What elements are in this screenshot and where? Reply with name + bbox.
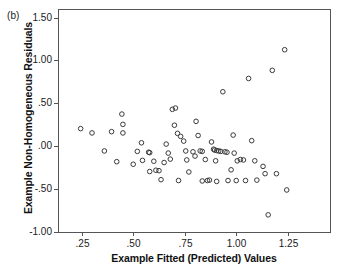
data-point [214, 179, 219, 184]
data-point [157, 168, 162, 173]
plot-frame [59, 10, 331, 233]
data-point [78, 126, 83, 131]
data-point [284, 188, 289, 193]
data-point [193, 154, 198, 159]
data-point [131, 162, 136, 167]
data-point [266, 213, 271, 218]
plot-border [59, 10, 331, 233]
data-point [176, 178, 181, 183]
data-point [102, 149, 107, 154]
data-point [172, 123, 177, 128]
data-point [159, 177, 164, 182]
data-point [252, 159, 257, 164]
data-point [203, 157, 208, 162]
data-point [90, 131, 95, 136]
data-point [184, 158, 189, 163]
data-point [234, 178, 239, 183]
data-point [226, 178, 231, 183]
data-point [194, 119, 199, 124]
axis-ticks [54, 19, 289, 237]
data-point [263, 171, 268, 176]
data-point [241, 158, 246, 163]
data-point [164, 142, 169, 147]
data-point [200, 179, 205, 184]
data-point [229, 168, 234, 173]
data-point [187, 170, 192, 175]
data-point [178, 134, 183, 139]
data-point [196, 133, 201, 138]
data-point [274, 171, 279, 176]
data-point [261, 164, 266, 169]
data-point [140, 158, 145, 163]
data-point [213, 159, 218, 164]
data-point [232, 151, 237, 156]
data-point [168, 157, 173, 162]
scatter-plot-figure: (b) Example Non-Homogeneous Residuals Ex… [0, 0, 344, 271]
data-point [231, 133, 236, 138]
plot-canvas [0, 0, 344, 271]
data-point [166, 151, 171, 156]
data-point [121, 122, 126, 127]
data-point [209, 140, 214, 145]
data-point [147, 169, 152, 174]
data-point [249, 138, 254, 143]
data-point [162, 160, 167, 165]
data-point [152, 159, 157, 164]
data-point [255, 178, 260, 183]
data-points [78, 47, 289, 217]
data-point [139, 141, 144, 146]
data-point [221, 89, 226, 94]
data-point [183, 149, 188, 154]
data-point [109, 129, 114, 134]
data-point [181, 139, 186, 144]
data-point [270, 68, 275, 73]
data-point [114, 159, 119, 164]
data-point [246, 76, 251, 81]
data-point [120, 112, 125, 117]
data-point [135, 149, 140, 154]
data-point [243, 178, 248, 183]
data-point [282, 47, 287, 52]
data-point [121, 131, 126, 136]
